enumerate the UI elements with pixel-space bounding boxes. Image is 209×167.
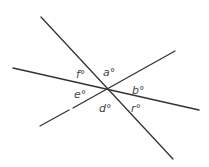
angle-label-r: r° [131, 102, 141, 115]
angle-label-e: e° [74, 88, 86, 101]
angle-label-f: f° [76, 68, 85, 81]
angle-label-a: a° [103, 66, 115, 79]
line-1 [41, 17, 173, 159]
line-3-lower [40, 110, 69, 126]
angle-label-b: b° [132, 84, 144, 97]
intersecting-lines-diagram: a° b° r° d° e° f° [0, 0, 209, 167]
angle-label-d: d° [99, 102, 111, 115]
line-3-upper [73, 51, 175, 108]
